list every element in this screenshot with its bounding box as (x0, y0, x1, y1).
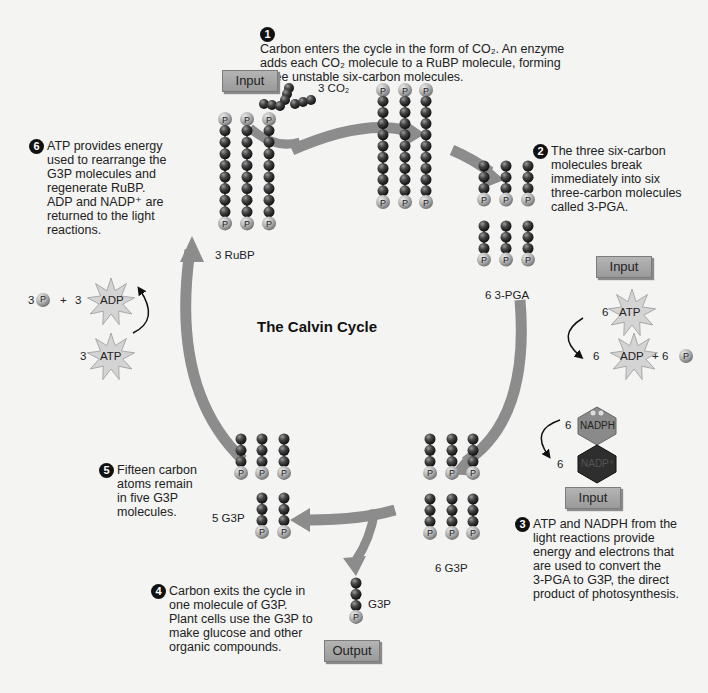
svg-text:P: P (427, 468, 433, 478)
svg-text:P: P (402, 86, 408, 96)
svg-text:P: P (266, 219, 272, 229)
regen-atp: ATP (100, 350, 122, 362)
nadp-label: NADP⁺ (581, 458, 614, 469)
g3p6-label: 6 G3P (435, 562, 468, 574)
input-atp-box: Input (596, 256, 652, 278)
svg-text:P: P (244, 219, 250, 229)
g3p5-label: 5 G3P (212, 512, 245, 524)
svg-text:P: P (222, 219, 228, 229)
atp-count: 6 (602, 306, 608, 318)
step-4-caption: 4 Carbon exits the cycle inone molecule … (151, 584, 331, 654)
svg-text:P: P (423, 198, 429, 208)
rubp-label: 3 RuBP (215, 249, 255, 261)
svg-text:P: P (525, 255, 531, 265)
svg-text:P: P (380, 86, 386, 96)
svg-text:P: P (427, 528, 433, 538)
svg-text:P: P (244, 115, 250, 125)
regen-p-count: 3 (28, 294, 34, 306)
regen-p: P (40, 294, 46, 304)
nadph-count: 6 (565, 419, 571, 431)
svg-text:P: P (222, 115, 228, 125)
svg-text:P: P (402, 198, 408, 208)
nadp-count: 6 (557, 458, 563, 470)
regen-adp: ADP (100, 294, 124, 306)
output-g3p-box: Output (324, 640, 380, 662)
input-co2-box: Input (222, 70, 278, 92)
svg-text:P: P (423, 86, 429, 96)
molecule-chains: PPPPPPPPPPPPPPPPPPPPPPPPPPPPPP (218, 83, 535, 624)
nadph-curve-arrow (541, 420, 560, 455)
svg-text:P: P (503, 255, 509, 265)
svg-text:P: P (470, 468, 476, 478)
svg-text:P: P (503, 195, 509, 205)
svg-text:P: P (481, 195, 487, 205)
p-count: + 6 (652, 350, 668, 362)
adp-label: ADP (620, 350, 644, 362)
step-6-caption: 6 ATP provides energyused to rearrange t… (29, 139, 179, 237)
input-nadph-box: Input (565, 487, 621, 509)
step-3-caption: 3 ATP and NADPH from thelight reactions … (515, 517, 705, 601)
diagram-title: The Calvin Cycle (257, 318, 377, 335)
pga-label: 6 3-PGA (485, 289, 529, 301)
atp-label: ATP (619, 306, 641, 318)
svg-text:P: P (380, 198, 386, 208)
svg-text:P: P (266, 115, 272, 125)
atp-curve-arrow (568, 318, 583, 356)
regen-curve-arrow (133, 290, 149, 333)
svg-text:P: P (470, 528, 476, 538)
svg-text:P: P (238, 468, 244, 478)
regen-adp-count: 3 (75, 294, 81, 306)
step-1-caption: 1 Carbon enters the cycle in the form of… (260, 27, 580, 84)
svg-text:P: P (525, 195, 531, 205)
g3p-output-label: G3P (368, 598, 391, 610)
p-label: P (683, 351, 689, 361)
svg-text:P: P (281, 468, 287, 478)
svg-text:P: P (449, 468, 455, 478)
step-5-caption: 5 Fifteen carbonatoms remainin five G3Pm… (99, 463, 209, 519)
regen-plus: + (60, 294, 67, 306)
nadph-label: NADPH (580, 420, 615, 431)
svg-text:P: P (481, 255, 487, 265)
regen-atp-count: 3 (80, 350, 86, 362)
svg-text:P: P (281, 527, 287, 537)
svg-text:P: P (353, 612, 359, 622)
svg-text:P: P (449, 528, 455, 538)
svg-text:P: P (259, 468, 265, 478)
svg-text:P: P (259, 527, 265, 537)
co2-label: 3 CO₂ (318, 82, 349, 94)
step-2-caption: 2 The three six-carbonmolecules breakimm… (533, 144, 708, 214)
adp-count: 6 (593, 350, 599, 362)
